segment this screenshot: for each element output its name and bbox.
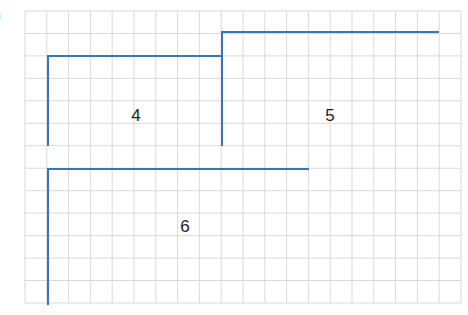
grid-diagram [0,0,468,315]
grid-lines [25,11,461,303]
shape-outline-6 [48,169,309,305]
shape-label-5: 5 [325,106,334,126]
shape-label-6: 6 [180,217,189,237]
shape-label-4: 4 [131,106,140,126]
